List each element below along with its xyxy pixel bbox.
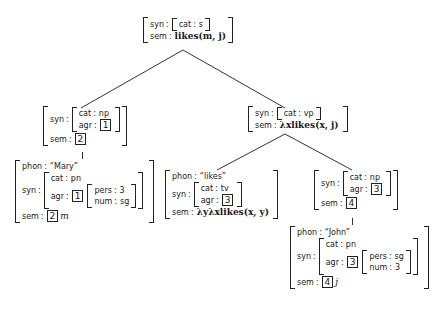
feature-sem: sem: [22, 211, 39, 222]
coindex-tag: 2: [47, 210, 59, 222]
feature-phon: phon: [172, 171, 192, 182]
edge-vp-v: [217, 134, 285, 170]
value-phon: “John”: [325, 227, 350, 238]
feature-agr: agr: [201, 195, 214, 206]
feature-cat: cat: [201, 183, 213, 194]
value-cat: np: [370, 172, 380, 183]
feature-sem: sem: [150, 31, 167, 42]
feature-agr: agr: [51, 191, 64, 202]
feature-syn: syn: [255, 108, 269, 119]
coindex-tag: 3: [347, 256, 359, 268]
value-sem: likes(m, j): [175, 31, 226, 42]
node-john: phon:“John” syn: cat:pn agr:3 pers:sg nu…: [290, 226, 429, 289]
feature-cat: cat: [79, 108, 91, 119]
value-num: sg: [120, 196, 129, 207]
node-vp: syn: cat:vp sem:λxlikes(x, j): [248, 106, 348, 132]
value-sem: j: [335, 277, 338, 288]
feature-phon: phon: [22, 161, 42, 172]
value-cat: tv: [221, 183, 229, 194]
feature-agr: agr: [326, 257, 339, 268]
feature-cat: cat: [284, 108, 296, 119]
node-s: syn: cat:s sem: likes(m, j): [143, 17, 233, 43]
value-cat: vp: [304, 108, 314, 119]
feature-sem: sem: [172, 207, 189, 218]
node-mary: phon:“Mary” syn: cat:pn agr:1 pers:3 num…: [15, 160, 154, 223]
feature-syn: syn: [22, 185, 36, 196]
edge-np-mary: [82, 152, 83, 159]
edge-np-john: [352, 218, 353, 225]
feature-cat: cat: [350, 172, 362, 183]
feature-syn: syn: [321, 178, 335, 189]
feature-syn: syn: [172, 189, 186, 200]
value-cat: s: [199, 19, 203, 30]
value-cat: np: [99, 108, 109, 119]
feature-phon: phon: [297, 227, 317, 238]
feature-pers: pers: [369, 251, 386, 262]
coindex-tag: 3: [222, 194, 234, 206]
coindex-tag: 2: [75, 133, 87, 145]
feature-num: num: [369, 262, 387, 273]
node-np-subject: syn: cat:np agr:1 sem:2: [43, 106, 127, 146]
feature-num: num: [94, 196, 112, 207]
feature-syn: syn: [297, 251, 311, 262]
edge-s-vp: [183, 50, 285, 108]
coindex-tag: 1: [100, 119, 112, 131]
feature-syn: syn: [50, 114, 64, 125]
coindex-tag: 4: [322, 276, 334, 288]
feature-sem: sem: [255, 120, 272, 131]
feature-sem: sem: [297, 277, 314, 288]
feature-syn: syn: [150, 19, 164, 30]
feature-pers: pers: [94, 185, 111, 196]
value-sem: m: [60, 211, 69, 222]
edge-s-np: [81, 50, 183, 108]
value-pers: sg: [395, 251, 404, 262]
value-pers: 3: [120, 185, 125, 196]
feature-agr: agr: [350, 184, 363, 195]
coindex-tag: 3: [371, 183, 383, 195]
coindex-tag: 1: [72, 190, 84, 202]
edge-vp-np: [285, 134, 352, 170]
feature-sem: sem: [321, 198, 338, 209]
node-np-object: syn: cat:np agr:3 sem:4: [314, 170, 398, 210]
feature-cat: cat: [51, 173, 63, 184]
value-phon: “likes”: [200, 171, 226, 182]
value-cat: pn: [71, 173, 81, 184]
value-cat: pn: [346, 239, 356, 250]
node-likes: phon:“likes” syn: cat:tv agr:3 sem:λyλxl…: [165, 170, 278, 219]
coindex-tag: 4: [346, 197, 358, 209]
value-num: 3: [395, 262, 400, 273]
feature-agr: agr: [79, 120, 92, 131]
feature-cat: cat: [326, 239, 338, 250]
value-sem: λxlikes(x, j): [280, 120, 339, 131]
feature-cat: cat: [179, 19, 191, 30]
feature-sem: sem: [50, 134, 67, 145]
value-sem: λyλxlikes(x, y): [197, 207, 269, 218]
value-phon: “Mary”: [50, 161, 78, 172]
